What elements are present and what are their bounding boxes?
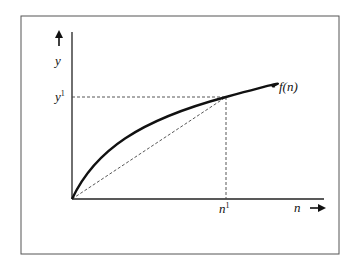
x-arrow-icon <box>310 204 326 212</box>
x-axis-label: n <box>294 200 301 215</box>
diagram-canvas: y y1 f(n) n1 n <box>0 0 359 268</box>
secant-line <box>72 97 226 199</box>
curve-f-n <box>72 84 278 199</box>
curve-label: f(n) <box>279 79 298 94</box>
y1-label: y1 <box>53 89 65 104</box>
y-axis-label: y <box>53 53 61 68</box>
outer-frame <box>21 16 339 254</box>
n1-label: n1 <box>219 201 230 216</box>
y-arrow-icon <box>55 30 63 46</box>
